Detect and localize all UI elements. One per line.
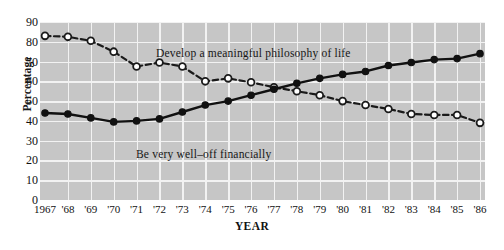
x-tick-label: '86 <box>474 203 487 215</box>
data-point-marker <box>339 71 345 77</box>
data-point-marker <box>156 116 162 122</box>
data-point-marker <box>225 75 232 82</box>
x-tick-label: '70 <box>107 203 120 215</box>
data-point-marker <box>156 59 163 66</box>
data-point-marker <box>454 55 460 61</box>
data-point-marker <box>87 37 94 44</box>
data-point-marker <box>179 63 186 70</box>
chart-figure: Percentage 9080706050403020100 Develop a… <box>0 0 504 250</box>
data-point-marker <box>110 48 117 55</box>
data-point-marker <box>179 109 185 115</box>
data-point-marker <box>317 75 323 81</box>
x-tick-label: '80 <box>336 203 349 215</box>
y-tick-label: 90 <box>12 16 38 28</box>
y-tick-label: 60 <box>12 75 38 87</box>
data-point-marker <box>133 118 139 124</box>
x-tick-label: '78 <box>290 203 303 215</box>
data-point-marker <box>42 32 49 39</box>
data-point-marker <box>385 106 392 113</box>
data-point-marker <box>293 88 300 95</box>
scan-artifact <box>0 232 504 250</box>
x-tick-label: '68 <box>61 203 74 215</box>
data-point-marker <box>477 119 484 126</box>
data-point-marker <box>431 56 437 62</box>
data-point-marker <box>65 111 71 117</box>
data-point-marker <box>477 50 483 56</box>
x-tick-label: '81 <box>359 203 372 215</box>
x-tick-label: '69 <box>84 203 97 215</box>
data-point-marker <box>294 80 300 86</box>
y-tick-label: 50 <box>12 95 38 107</box>
y-tick-label: 30 <box>12 135 38 147</box>
data-point-marker <box>133 63 140 70</box>
x-axis-title: YEAR <box>0 220 504 232</box>
x-tick-label: '72 <box>153 203 166 215</box>
data-point-marker <box>408 111 415 118</box>
data-point-marker <box>431 112 438 119</box>
data-point-marker <box>42 110 48 116</box>
data-point-marker <box>64 33 71 40</box>
x-tick-label: '74 <box>199 203 212 215</box>
data-point-marker <box>385 62 391 68</box>
x-tick-label: '76 <box>245 203 258 215</box>
data-point-marker <box>362 68 368 74</box>
data-point-marker <box>248 79 255 86</box>
data-point-marker <box>339 98 346 105</box>
data-point-marker <box>454 112 461 119</box>
data-point-marker <box>362 102 369 109</box>
y-tick-label: 20 <box>12 154 38 166</box>
data-point-marker <box>408 59 414 65</box>
data-point-marker <box>316 92 323 99</box>
y-tick-label: 80 <box>12 36 38 48</box>
x-tick-label: '73 <box>176 203 189 215</box>
series-annotation-financial: Be very well–off financially <box>136 148 271 160</box>
x-tick-label: 1967 <box>34 203 56 215</box>
x-tick-label: '84 <box>428 203 441 215</box>
data-point-marker <box>88 115 94 121</box>
series-annotation-philosophy: Develop a meaningful philosophy of life <box>156 47 351 59</box>
data-point-marker <box>271 86 277 92</box>
y-tick-label: 10 <box>12 174 38 186</box>
y-tick-label: 40 <box>12 115 38 127</box>
x-tick-label: '79 <box>313 203 326 215</box>
data-point-marker <box>248 92 254 98</box>
x-tick-label: '77 <box>267 203 280 215</box>
y-tick-label: 70 <box>12 56 38 68</box>
data-point-marker <box>110 119 116 125</box>
plot-area: Develop a meaningful philosophy of life … <box>40 22 485 200</box>
x-tick-label: '71 <box>130 203 143 215</box>
x-tick-label: '85 <box>451 203 464 215</box>
x-tick-label: '82 <box>382 203 395 215</box>
data-point-marker <box>202 78 209 85</box>
x-tick-label: '83 <box>405 203 418 215</box>
x-tick-label: '75 <box>222 203 235 215</box>
data-point-marker <box>202 102 208 108</box>
x-axis-ticks: 1967'68'69'70'71'72'73'74'75'76'77'78'79… <box>40 203 485 219</box>
data-point-marker <box>225 98 231 104</box>
